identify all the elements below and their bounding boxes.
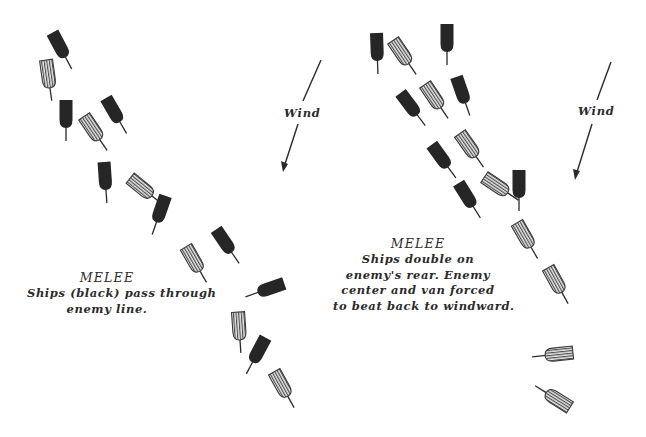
ship-hull (60, 100, 73, 128)
ship-black (370, 33, 384, 74)
ship-bowsprit (535, 386, 547, 393)
ship-bowsprit (408, 63, 416, 75)
wind-arrow-right (573, 62, 611, 180)
right-diagram-ships (370, 24, 574, 413)
ship-hull (453, 180, 479, 211)
ship-hatched (455, 130, 489, 171)
ship-bowsprit (473, 206, 480, 218)
ship-bowsprit (99, 139, 107, 151)
caption-left: MELEE Ships (black) pass through enemy l… (27, 270, 187, 317)
ship-bowsprit (65, 56, 72, 68)
ship-hull (441, 24, 454, 52)
ship-bowsprit (246, 361, 253, 373)
ship-bowsprit (50, 87, 52, 101)
ship-hatched (420, 81, 454, 122)
ship-bowsprit (448, 167, 456, 178)
ship-hull (543, 265, 568, 296)
ship-bowsprit (465, 102, 470, 115)
ship-bowsprit (287, 395, 294, 407)
ship-hatched (40, 59, 59, 101)
ship-hatched (511, 220, 543, 262)
ship-hull (481, 172, 511, 198)
ship-black (453, 180, 486, 222)
wind-label-right: Wind (578, 104, 615, 118)
ship-hull (388, 37, 414, 67)
ship-hatched (543, 265, 574, 307)
ship-hatched (388, 37, 422, 78)
ship-hull (269, 369, 294, 400)
ship-hull (232, 312, 247, 341)
ship-hull (370, 33, 384, 61)
ship-bowsprit (440, 107, 448, 119)
ship-bowsprit (531, 246, 538, 258)
ship-hatched (232, 312, 248, 354)
ship-hull (256, 277, 287, 298)
ship-hull (513, 170, 526, 198)
ship-bowsprit (120, 121, 127, 133)
ship-hatched (269, 369, 300, 411)
ship-hull (455, 130, 482, 160)
ship-black (427, 141, 462, 182)
ship-hull (420, 81, 446, 111)
ship-hull (450, 75, 471, 106)
ship-bowsprit (231, 252, 239, 264)
left-diagram-ships (40, 30, 300, 411)
ship-hatched (532, 380, 574, 413)
caption-line: enemy line. (27, 302, 187, 318)
ship-hull (100, 95, 125, 126)
caption-line: Ships double on (333, 252, 503, 268)
ship-bowsprit (152, 221, 157, 234)
ship-black (513, 170, 526, 211)
ship-hull (247, 335, 272, 366)
ship-bowsprit (417, 114, 425, 125)
ship-bowsprit (475, 156, 483, 167)
ship-bowsprit (245, 292, 258, 297)
caption-line: to beat back to windward. (333, 299, 503, 315)
caption-title: MELEE (27, 270, 187, 286)
ship-black (241, 335, 272, 377)
ship-hatched (79, 113, 113, 154)
ship-hull (211, 226, 237, 256)
ship-bowsprit (532, 355, 546, 356)
caption-title: MELEE (333, 236, 503, 252)
ship-black (60, 100, 73, 141)
ship-bowsprit (240, 339, 241, 353)
arrowhead-icon (573, 169, 580, 180)
ship-bowsprit (200, 270, 207, 282)
naval-battle-diagram (0, 0, 646, 437)
ship-hull (40, 59, 57, 89)
ship-hull (544, 346, 573, 362)
ship-hull (427, 141, 454, 171)
ship-hull (47, 30, 72, 61)
ship-black (146, 194, 172, 237)
caption-right: MELEE Ships double on enemy's rear. Enem… (333, 236, 503, 315)
ship-hull (98, 162, 113, 191)
caption-line: center and van forced (333, 283, 503, 299)
wind-label-left: Wind (284, 106, 321, 120)
ship-hull (543, 387, 574, 413)
arrowhead-icon (281, 161, 288, 172)
ship-black (243, 277, 286, 303)
ship-black (441, 24, 454, 65)
ship-hull (150, 194, 171, 225)
ship-hull (511, 220, 536, 251)
ship-black (211, 226, 245, 267)
ship-hull (79, 113, 105, 143)
ship-bowsprit (106, 189, 107, 203)
ship-black (450, 75, 476, 118)
ship-hatched (531, 346, 573, 363)
ship-black (98, 162, 114, 204)
ship-bowsprit (561, 291, 568, 303)
ship-black (100, 95, 132, 137)
caption-line: enemy's rear. Enemy (333, 268, 503, 284)
caption-line: Ships (black) pass through (27, 286, 187, 302)
ship-hull (126, 173, 156, 201)
ship-hull (395, 89, 422, 119)
